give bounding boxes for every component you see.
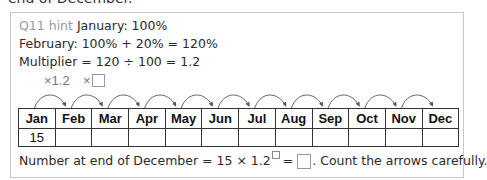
multiplier-blank-box[interactable] xyxy=(92,74,105,87)
arrow-arc xyxy=(35,95,66,108)
arrow-arc xyxy=(255,95,286,108)
month-value-sep[interactable] xyxy=(312,129,349,147)
hint-line-3: Multiplier = 120 ÷ 100 = 1.2 xyxy=(19,53,200,71)
arrow-arc xyxy=(365,95,396,108)
month-header-mar: Mar xyxy=(92,109,129,129)
month-value-jul[interactable] xyxy=(239,129,276,147)
equation-prefix: Number at end of December = 15 × 1.2 xyxy=(19,152,271,170)
multiplier-second-prefix: × xyxy=(83,73,91,88)
month-header-jun: Jun xyxy=(202,109,239,129)
multiplier-label-second: × xyxy=(83,73,105,88)
hint-line-1: Q11 hint January: 100% xyxy=(19,17,167,35)
arrow-arc xyxy=(108,95,139,108)
arrow-arc xyxy=(402,95,433,108)
month-value-aug[interactable] xyxy=(275,129,312,147)
exponent-blank-box[interactable] xyxy=(272,151,280,159)
month-value-jun[interactable] xyxy=(202,129,239,147)
month-header-aug: Aug xyxy=(275,109,312,129)
month-value-apr[interactable] xyxy=(129,129,166,147)
month-header-may: May xyxy=(165,109,202,129)
answer-blank-box[interactable] xyxy=(297,154,311,169)
month-value-nov[interactable] xyxy=(385,129,422,147)
month-header-nov: Nov xyxy=(385,109,422,129)
hint-january-text: January: 100% xyxy=(73,18,167,33)
month-header-apr: Apr xyxy=(129,109,166,129)
month-header-sep: Sep xyxy=(312,109,349,129)
arrow-arc xyxy=(71,95,102,108)
arrow-arc xyxy=(291,95,322,108)
hint-line-2: February: 100% + 20% = 120% xyxy=(19,35,218,53)
arrow-arc xyxy=(181,95,212,108)
hint-label: Q11 hint xyxy=(19,18,73,33)
months-values-row: 15 xyxy=(19,129,459,147)
multiplier-label-first: ×1.2 xyxy=(44,73,70,88)
month-header-jul: Jul xyxy=(239,109,276,129)
bottom-equation: Number at end of December = 15 × 1.2 = .… xyxy=(19,152,487,170)
arrow-arc xyxy=(328,95,359,108)
arrow-arc xyxy=(218,95,249,108)
months-header-row: JanFebMarAprMayJunJulAugSepOctNovDec xyxy=(19,109,459,129)
month-value-oct[interactable] xyxy=(349,129,386,147)
month-value-dec[interactable] xyxy=(422,129,459,147)
month-header-oct: Oct xyxy=(349,109,386,129)
month-header-jan: Jan xyxy=(19,109,56,129)
hint-box: Q11 hint January: 100% February: 100% + … xyxy=(10,12,464,178)
cut-off-heading: end of December. xyxy=(8,0,133,6)
equation-equals: = xyxy=(283,152,293,170)
month-value-may[interactable] xyxy=(165,129,202,147)
arrow-arc xyxy=(145,95,176,108)
month-value-mar[interactable] xyxy=(92,129,129,147)
month-header-feb: Feb xyxy=(55,109,92,129)
equation-suffix: . Count the arrows carefully. xyxy=(312,152,487,170)
month-value-jan: 15 xyxy=(19,129,56,147)
month-value-feb[interactable] xyxy=(55,129,92,147)
months-table: JanFebMarAprMayJunJulAugSepOctNovDec 15 xyxy=(18,108,459,147)
month-header-dec: Dec xyxy=(422,109,459,129)
